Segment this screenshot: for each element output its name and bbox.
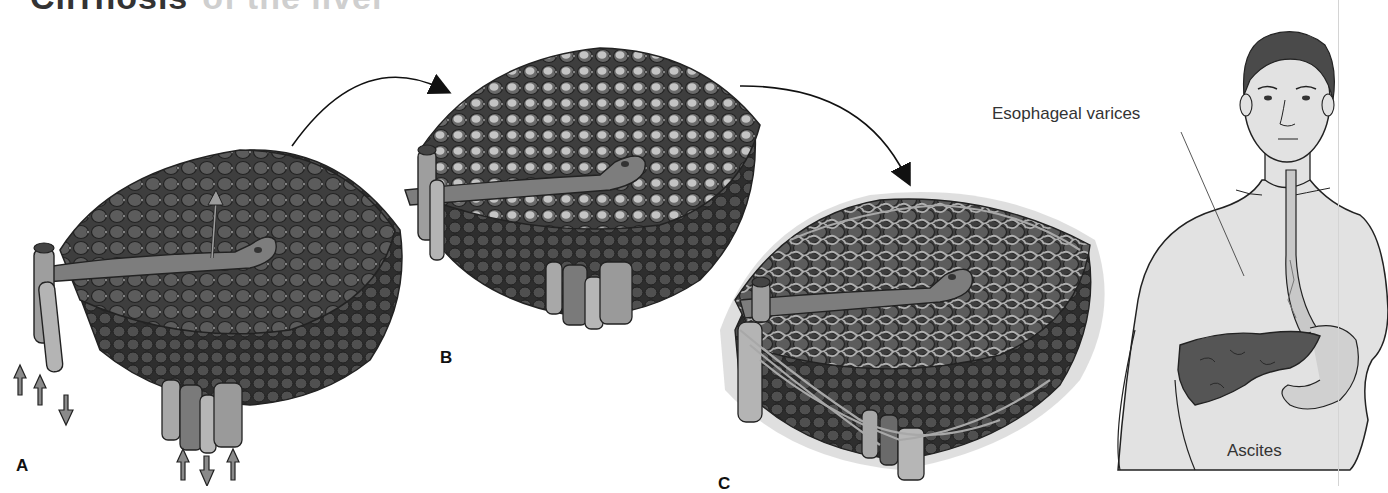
panel-label-a: A [16,456,28,476]
patient-figure [1118,32,1388,470]
callout-ascites: Ascites [1227,441,1282,461]
lobule-c [720,192,1105,480]
callout-esophageal-varices: Esophageal varices [992,104,1140,124]
lobule-b [405,48,760,329]
page-edge-line [1338,0,1339,486]
progression-arrow-b-to-c [740,86,905,175]
lobule-a [14,150,402,486]
panel-label-c: C [718,474,730,493]
progression-arrow-a-to-b [292,77,440,146]
panel-label-b: B [440,348,452,368]
